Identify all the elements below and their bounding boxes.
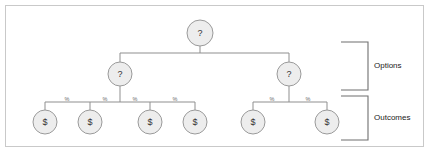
- outcome-node-2[interactable]: $: [78, 110, 102, 134]
- probability-label-4: %: [173, 96, 178, 102]
- decision-node-left[interactable]: ?: [108, 62, 132, 86]
- outcome-node-6-label: $: [324, 117, 329, 127]
- outcome-node-3[interactable]: $: [138, 110, 162, 134]
- options-bracket-shape: [341, 42, 368, 90]
- decision-node-right-label: ?: [286, 69, 291, 79]
- outcome-node-6[interactable]: $: [315, 110, 339, 134]
- root-node-label: ?: [197, 28, 202, 38]
- probability-label-2: %: [103, 96, 108, 102]
- probability-label-1: %: [65, 96, 70, 102]
- options-bracket-label: Options: [374, 61, 402, 70]
- probability-label-3: %: [133, 96, 138, 102]
- decision-tree-svg: ? ? ? $ $ $ $ $: [0, 0, 430, 153]
- outcome-node-4-label: $: [192, 117, 197, 127]
- outcome-node-2-label: $: [87, 117, 92, 127]
- outcome-node-3-label: $: [147, 117, 152, 127]
- outcomes-bracket-label: Outcomes: [374, 113, 410, 122]
- outcome-node-5[interactable]: $: [241, 110, 265, 134]
- decision-node-left-label: ?: [117, 69, 122, 79]
- probability-label-6: %: [306, 96, 311, 102]
- options-bracket: Options: [341, 42, 402, 90]
- decision-tree-figure: ? ? ? $ $ $ $ $: [0, 0, 430, 153]
- probability-label-5: %: [270, 96, 275, 102]
- outcome-node-4[interactable]: $: [183, 110, 207, 134]
- outcomes-bracket-shape: [341, 96, 368, 140]
- outcomes-bracket: Outcomes: [341, 96, 410, 140]
- outcome-node-1-label: $: [42, 117, 47, 127]
- probability-labels: % % % % % %: [65, 96, 311, 102]
- root-node[interactable]: ?: [187, 20, 213, 46]
- outcome-node-5-label: $: [250, 117, 255, 127]
- outcome-node-1[interactable]: $: [33, 110, 57, 134]
- decision-node-right[interactable]: ?: [277, 62, 301, 86]
